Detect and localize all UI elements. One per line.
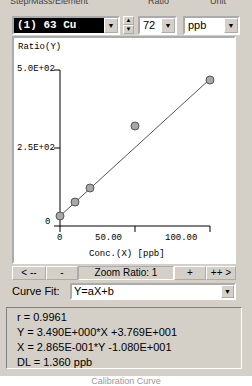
header-ratio: Ratio: [148, 0, 169, 6]
zoom-first-button[interactable]: < --: [12, 266, 46, 280]
element-select-value: (1) 63 Cu: [17, 19, 76, 31]
spin-up-icon[interactable]: ▲: [123, 16, 134, 25]
mass-select[interactable]: 72 ▼: [138, 16, 177, 35]
correlation-coefficient: r = 0.9961: [17, 310, 241, 325]
calibration-chart: Ratio(Y) 5.0E+02 2.5E+02 0 0 50.00 100.0…: [12, 36, 236, 264]
footer-caption: Calibration Curve: [0, 376, 252, 386]
y-equation: Y = 3.490E+000*X +3.769E+001: [17, 325, 241, 340]
header-unit: Unit: [210, 0, 226, 6]
zoom-last-button[interactable]: ++ >: [206, 266, 236, 280]
zoom-ratio-label: Zoom Ratio: 1: [78, 266, 174, 280]
zoom-out-button[interactable]: -: [46, 266, 78, 280]
chart-plot-area: [14, 38, 234, 262]
curve-fit-label: Curve Fit:: [12, 285, 60, 297]
zoom-in-button[interactable]: +: [174, 266, 206, 280]
detection-limit: DL = 1.360 ppb: [17, 355, 241, 369]
column-header: Step/Mass/Element Ratio Unit: [0, 0, 252, 10]
unit-select-value: ppb: [188, 19, 206, 31]
header-step-mass-element: Step/Mass/Element: [10, 0, 88, 6]
element-select[interactable]: (1) 63 Cu ▼: [12, 16, 120, 35]
chevron-down-icon[interactable]: ▼: [224, 18, 238, 33]
element-spinner[interactable]: ▲ ▼: [123, 16, 134, 35]
spin-down-icon[interactable]: ▼: [123, 25, 134, 34]
curve-fit-value: Y=aX+b: [74, 285, 114, 297]
chevron-down-icon[interactable]: ▼: [104, 18, 118, 33]
x-equation: X = 2.865E-001*Y -1.080E+001: [17, 340, 241, 355]
chevron-down-icon[interactable]: ▼: [161, 18, 175, 33]
curve-fit-select[interactable]: Y=aX+b ▼: [70, 283, 236, 300]
mass-select-value: 72: [143, 19, 155, 31]
chevron-down-icon[interactable]: ▼: [221, 285, 234, 298]
fit-results-panel: r = 0.9961 Y = 3.490E+000*X +3.769E+001 …: [6, 307, 242, 369]
fit-line: [60, 79, 210, 216]
unit-select[interactable]: ppb ▼: [183, 16, 240, 35]
